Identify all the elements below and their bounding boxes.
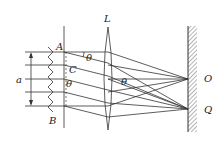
label-C: C [69, 64, 77, 75]
label-O: O [204, 73, 212, 84]
label-A: A [55, 41, 63, 52]
angle-arc [83, 52, 84, 57]
label-a: a [16, 74, 22, 85]
label-B: B [48, 115, 56, 126]
lens [104, 27, 112, 130]
label-Q: Q [204, 104, 212, 115]
label-theta-lens: θ [121, 76, 127, 87]
focused-rays [108, 52, 188, 117]
label-L: L [103, 13, 111, 24]
diffraction-diagram: a A B C θ θ L θ O Q [0, 0, 224, 151]
wavefront [48, 47, 53, 112]
wavefront-marks [48, 47, 53, 112]
screen-hatch [188, 26, 197, 132]
